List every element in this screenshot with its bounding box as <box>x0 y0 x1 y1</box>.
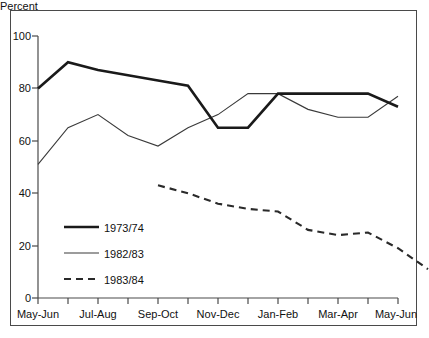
series-lines <box>38 62 428 269</box>
y-axis-ticks <box>32 36 38 298</box>
series-line-1982-83 <box>38 94 398 165</box>
series-line-1983-84 <box>158 185 428 269</box>
chart-axes <box>32 36 398 304</box>
x-axis-ticks <box>38 298 398 304</box>
series-line-1973-74 <box>38 62 398 128</box>
line-chart-plot <box>0 0 429 338</box>
legend-swatches <box>64 227 99 279</box>
